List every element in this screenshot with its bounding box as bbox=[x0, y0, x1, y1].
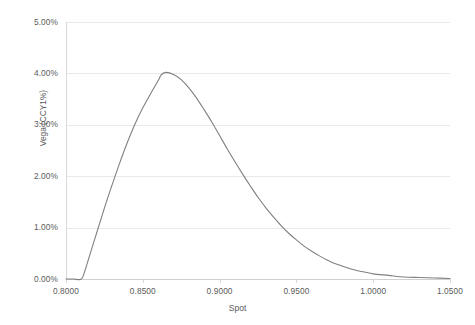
x-tick-label-3: 0.9500 bbox=[261, 286, 331, 296]
y-axis-title: Vega (CCY1%) bbox=[38, 68, 48, 168]
y-tick-label-1: 1.00% bbox=[6, 222, 58, 232]
y-tick-label-3: 3.00% bbox=[6, 119, 58, 129]
x-tick-mark-4 bbox=[373, 279, 374, 283]
x-tick-mark-3 bbox=[296, 279, 297, 283]
gridline-y-0 bbox=[66, 279, 450, 280]
x-axis-title: Spot bbox=[0, 303, 475, 313]
x-tick-label-5: 1.0500 bbox=[415, 286, 475, 296]
gridline-y-2 bbox=[66, 176, 450, 177]
x-tick-mark-1 bbox=[143, 279, 144, 283]
x-tick-label-2: 0.9000 bbox=[185, 286, 255, 296]
gridline-y-1 bbox=[66, 228, 450, 229]
gridline-y-4 bbox=[66, 73, 450, 74]
plot-area bbox=[66, 22, 450, 279]
x-tick-mark-5 bbox=[450, 279, 451, 283]
y-tick-label-4: 4.00% bbox=[6, 68, 58, 78]
vega-spot-chart: 0.00%1.00%2.00%3.00%4.00%5.00% 0.80000.8… bbox=[0, 0, 475, 325]
x-tick-mark-2 bbox=[220, 279, 221, 283]
y-tick-label-0: 0.00% bbox=[6, 274, 58, 284]
y-tick-label-5: 5.00% bbox=[6, 17, 58, 27]
y-axis-line bbox=[66, 22, 67, 280]
x-tick-label-4: 1.0000 bbox=[338, 286, 408, 296]
y-tick-label-2: 2.00% bbox=[6, 171, 58, 181]
x-tick-label-0: 0.8000 bbox=[31, 286, 101, 296]
gridline-y-3 bbox=[66, 125, 450, 126]
gridline-y-5 bbox=[66, 22, 450, 23]
x-tick-label-1: 0.8500 bbox=[108, 286, 178, 296]
x-tick-mark-0 bbox=[66, 279, 67, 283]
